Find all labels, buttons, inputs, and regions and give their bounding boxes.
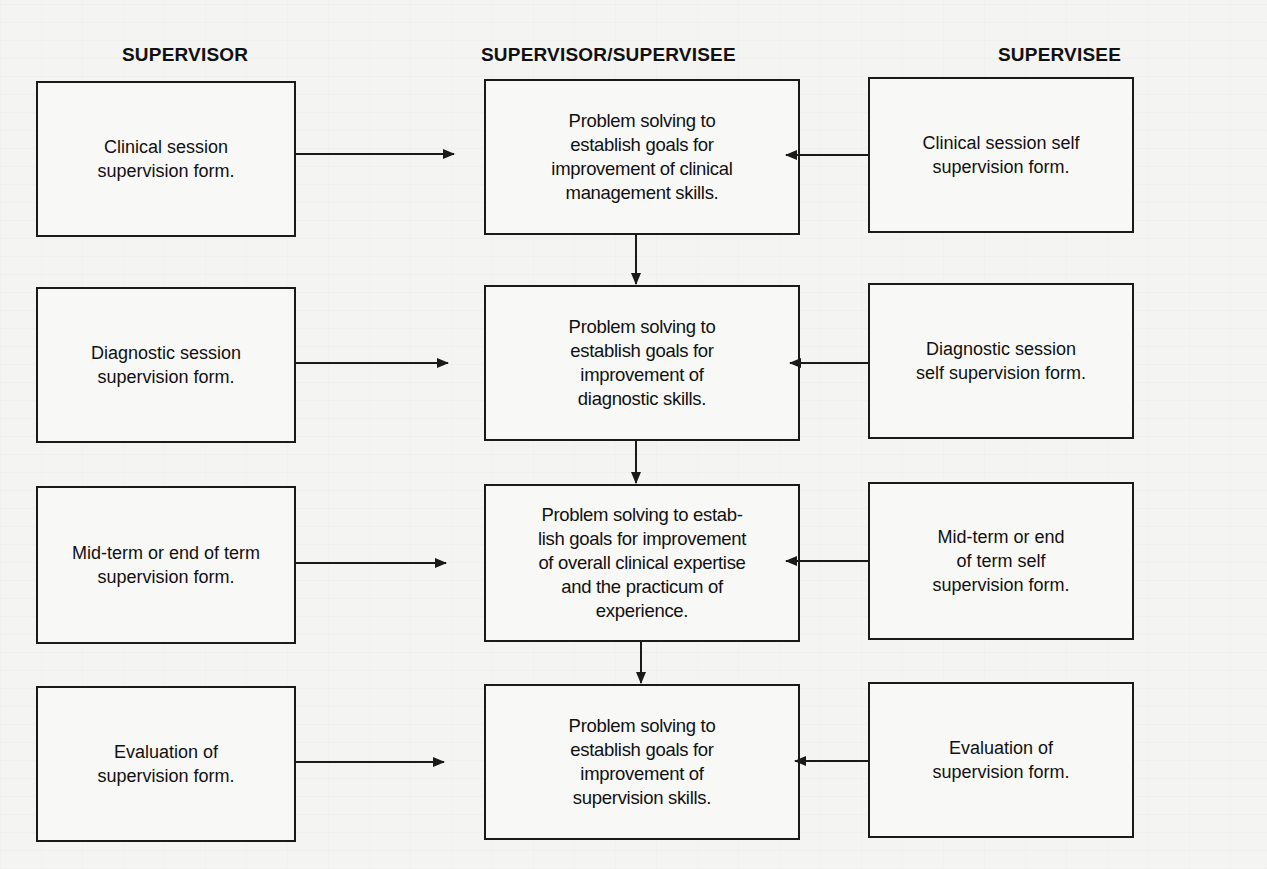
connector-arrows xyxy=(0,0,1267,869)
